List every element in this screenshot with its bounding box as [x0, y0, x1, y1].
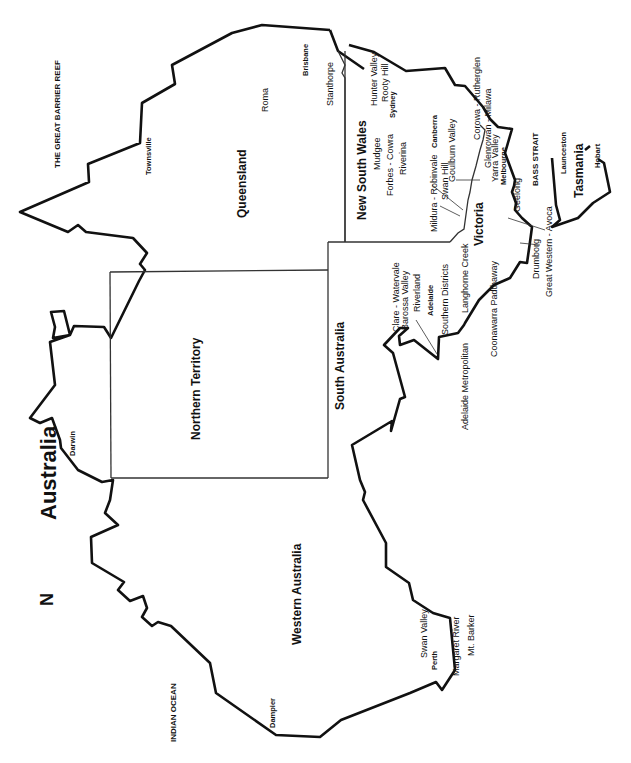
region-label-adelaide-metropolitan: Adelaide Metropolitan — [461, 343, 470, 430]
ocean-label-bass-strait: BASS STRAIT — [532, 133, 540, 186]
region-label-mudgee: Mudgee — [373, 137, 382, 170]
state-label-western-australia: Western Australia — [291, 544, 303, 645]
qld-coast-link — [330, 30, 364, 69]
region-label-roma: Roma — [261, 88, 270, 112]
state-label-south-australia: South Australia — [334, 322, 346, 410]
region-label-corowa-rutherglen: Corowa - Rutherglen — [473, 57, 482, 140]
state-label-northern-territory: Northern Territory — [190, 338, 202, 440]
state-label-queensland: Queensland — [236, 149, 248, 218]
region-label-southern-districts: Southern Districts — [441, 264, 450, 335]
australia-outline-map — [0, 0, 631, 763]
region-label-riverland: Riverland — [413, 274, 422, 312]
region-label-yarra-valley: Yarra Valley — [491, 134, 500, 182]
state-label-victoria: Victoria — [473, 202, 485, 246]
city-label-sydney: Sydney — [389, 91, 397, 118]
region-label-margaret-river: Margaret River — [452, 616, 461, 676]
city-label-melbourne: Melbourne — [500, 147, 508, 185]
city-label-perth: Perth — [431, 651, 439, 670]
region-label-geelong: Geelong — [513, 178, 522, 212]
region-label-riverina: Riverina — [399, 142, 408, 175]
city-label-launceston: Launceston — [560, 132, 568, 174]
city-label-brisbane: Brisbane — [302, 44, 310, 76]
region-label-stanthorpe: Stanthorpe — [326, 62, 335, 106]
region-label-great-western-avoca: Great Western - Avoca — [545, 206, 554, 297]
region-label-mildura-robinvale: Mildura - Robinvale — [430, 154, 439, 232]
region-label-drumborg: Drumborg — [532, 239, 541, 279]
city-label-townsville: Townsville — [145, 137, 153, 175]
region-label-coonawarra-padthaway: Coonawarra Padthaway — [490, 261, 499, 357]
state-label-tasmania: Tasmania — [573, 144, 585, 198]
city-label-adelaide: Adelaide — [427, 285, 435, 316]
north-arrow: N — [38, 593, 56, 606]
region-label-mt-barker: Mt. Barker — [467, 614, 476, 656]
state-label-new-south-wales: New South Wales — [356, 120, 368, 220]
state-borders — [110, 51, 485, 478]
region-label-langhorne-creek: Langhorne Creek — [461, 243, 470, 313]
city-label-dampier: Dampier — [269, 698, 277, 728]
city-label-darwin: Darwin — [69, 431, 77, 456]
region-label-swan-valley: Swan Valley — [420, 609, 429, 658]
region-label-rooty-hill: Rooty Hill — [381, 63, 390, 102]
region-label-forbes-cowra: Forbes - Cowra — [386, 134, 395, 196]
region-label-swan-hill: Swan Hill — [441, 162, 450, 200]
region-label-barossa-valley: Barossa Valley — [401, 271, 410, 330]
city-label-canberra: Canberra — [431, 115, 439, 148]
region-label-hunter-valley: Hunter Valley — [370, 53, 379, 106]
ocean-label-indian-ocean: INDIAN OCEAN — [170, 683, 178, 742]
map-title: Australia — [38, 426, 60, 520]
ocean-label-great-barrier-reef: THE GREAT BARRIER REEF — [54, 60, 62, 168]
city-label-hobart: Hobart — [594, 144, 602, 168]
